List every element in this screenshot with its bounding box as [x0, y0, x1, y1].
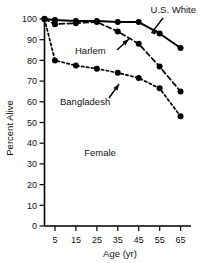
leader-line-us-white	[152, 18, 164, 33]
data-point	[157, 64, 163, 70]
y-tick-label: 40	[27, 138, 37, 148]
series-u-s-white	[45, 17, 184, 51]
annotation-female: Female	[84, 147, 116, 158]
data-point	[136, 41, 142, 47]
data-point	[115, 70, 121, 76]
y-tick-label: 90	[27, 35, 37, 45]
y-tick-label: 20	[27, 180, 37, 190]
series-label-us-white: U.S. White	[151, 4, 196, 15]
annotation-harlem: Harlem	[75, 39, 129, 56]
x-tick-label: 45	[134, 235, 144, 245]
arrowhead-bangladesh	[113, 84, 119, 90]
series-harlem	[45, 19, 184, 94]
data-point	[115, 19, 121, 25]
data-point	[94, 19, 100, 25]
data-point	[73, 20, 79, 26]
y-axis-tick-labels: 100 90 80 70 60 50 40 30 20 10 0	[22, 14, 37, 231]
y-tick-label: 0	[32, 221, 37, 231]
data-point	[52, 21, 58, 27]
data-point	[136, 19, 142, 25]
data-point	[136, 75, 142, 81]
data-point	[52, 57, 58, 63]
x-tick-label: 15	[71, 235, 81, 245]
y-tick-label: 10	[27, 201, 37, 211]
series-label-harlem: Harlem	[75, 45, 106, 56]
data-point-origin	[41, 16, 47, 22]
y-axis-title-text: Percent Alive	[4, 100, 15, 155]
y-tick-label: 30	[27, 159, 37, 169]
x-tick-label: 35	[113, 235, 123, 245]
data-point	[178, 88, 184, 94]
x-tick-label: 55	[155, 235, 165, 245]
y-tick-label: 100	[22, 14, 37, 24]
x-axis-title: Age (yr)	[103, 248, 137, 259]
series-line	[45, 19, 181, 91]
x-tick-label: 5	[52, 235, 57, 245]
x-axis-tick-labels: 5 15 25 35 45 55 65	[52, 235, 185, 245]
y-tick-label: 50	[27, 118, 37, 128]
data-point	[157, 30, 163, 36]
x-tick-label: 25	[92, 235, 102, 245]
x-tick-label: 65	[176, 235, 186, 245]
data-point	[94, 66, 100, 72]
annotation-bangladesh: Bangladesh	[60, 84, 119, 107]
data-point	[178, 45, 184, 51]
annotation-us-white: U.S. White	[151, 4, 196, 35]
survival-curve-chart: 100 90 80 70 60 50 40 30 20 10 0 5 15 25	[0, 0, 202, 263]
data-point	[115, 28, 121, 34]
series-label-bangladesh: Bangladesh	[60, 96, 110, 107]
data-point	[73, 63, 79, 69]
y-tick-label: 60	[27, 97, 37, 107]
chart-svg: 100 90 80 70 60 50 40 30 20 10 0 5 15 25	[0, 0, 202, 263]
y-tick-label: 80	[27, 56, 37, 66]
y-tick-label: 70	[27, 76, 37, 86]
data-point	[178, 113, 184, 119]
data-point	[157, 85, 163, 91]
